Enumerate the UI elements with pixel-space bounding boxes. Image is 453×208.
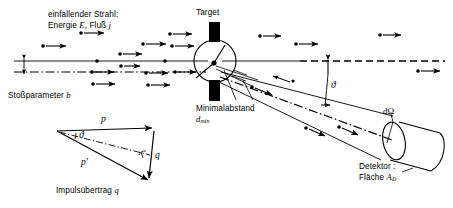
detector-area-prefix: Fläche: [359, 173, 387, 182]
momentum-caption-text: Impulsübertrag: [56, 186, 114, 195]
solid-angle-label: dΩ: [383, 106, 394, 116]
min-distance-label-line2: dmin: [196, 114, 210, 126]
beam-energy-prefix: Energie: [48, 21, 79, 30]
momentum-transfer-caption: Impulsübertrag q: [56, 185, 119, 196]
impact-parameter-text: Stoßparameter: [8, 91, 66, 100]
momentum-caption-symbol: q: [114, 185, 118, 195]
momentum-triangle: [57, 128, 154, 180]
detector-label-leader: [402, 168, 413, 172]
min-distance-subscript: min: [200, 118, 209, 124]
target-label: Target: [196, 8, 219, 18]
beam-flux-prefix: , Fluß: [85, 21, 109, 30]
scattered-particles: [250, 76, 358, 136]
vector-p-prime-label: p': [81, 157, 88, 167]
detector-label-line2: Fläche AD: [359, 172, 396, 184]
impact-parameter-symbol: b: [66, 90, 70, 100]
triangle-angle-label: ϑ: [79, 130, 84, 140]
scattered-cone-envelope: [219, 72, 393, 160]
detector-label-line1: Detektor :: [359, 162, 396, 172]
min-distance-label-line1: Minimalabstand: [196, 104, 255, 114]
transmitted-particles: [258, 33, 440, 73]
impact-parameter-label: Stoßparameter b: [8, 90, 71, 101]
vector-p-label: p: [101, 114, 106, 124]
scattering-diagram-figure: einfallender Strahl: Energie E, Fluß j S…: [0, 0, 453, 208]
vector-q-label: q: [155, 150, 160, 160]
incident-beam-label-line2: Energie E, Fluß j: [48, 20, 111, 31]
incident-particles: [41, 31, 196, 87]
beam-flux-symbol: j: [109, 20, 112, 30]
detector-area-subscript: D: [392, 176, 396, 182]
scattering-angle-label: ϑ: [331, 80, 336, 90]
target-assembly: [194, 22, 236, 101]
incident-beam-label-line1: einfallender Strahl:: [48, 10, 118, 20]
